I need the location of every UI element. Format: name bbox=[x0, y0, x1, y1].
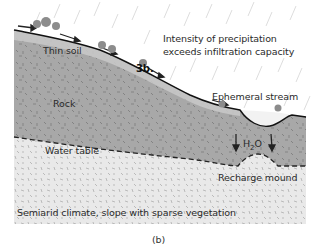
precipitation-label-line1: Intensity of precipitation bbox=[163, 34, 277, 44]
step-label: 3b. bbox=[136, 64, 154, 74]
climate-label: Semiarid climate, slope with sparse vege… bbox=[17, 208, 236, 218]
water-table-label: Water table bbox=[45, 146, 99, 156]
recharge-mound-label: Recharge mound bbox=[218, 173, 297, 183]
ephemeral-stream-label: Ephemeral stream bbox=[212, 92, 298, 102]
thin-soil-label: Thin soil bbox=[43, 46, 82, 56]
h2o-label: H2O bbox=[243, 139, 262, 152]
precipitation-label-line2: exceeds infiltration capacity bbox=[163, 47, 294, 57]
rock-label: Rock bbox=[53, 99, 75, 109]
h2o-h: H bbox=[243, 138, 250, 149]
figure-caption: (b) bbox=[152, 235, 165, 245]
h2o-o: O bbox=[254, 138, 261, 149]
